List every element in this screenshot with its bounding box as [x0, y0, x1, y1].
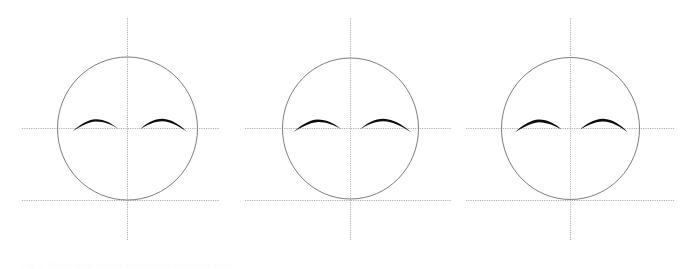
caption-remnant: Fig. 1. Three facial feature models with… — [22, 262, 352, 269]
diagram-canvas — [0, 0, 692, 269]
figure-panel: Fig. 1. Three facial feature models with… — [0, 0, 692, 269]
canvas-background — [0, 0, 692, 269]
